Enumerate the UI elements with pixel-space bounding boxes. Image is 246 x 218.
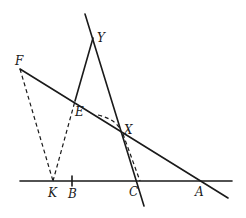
label-E: E <box>74 105 84 119</box>
label-K: K <box>47 186 58 200</box>
label-C: C <box>129 185 138 199</box>
label-B: B <box>67 187 77 201</box>
segment-E-Y <box>75 38 93 101</box>
label-Y: Y <box>97 31 106 45</box>
label-F: F <box>14 54 24 68</box>
geometry-diagram: Y F E X K B C A <box>0 0 246 218</box>
label-A: A <box>194 185 204 199</box>
label-X: X <box>123 123 133 137</box>
line-through-Y-C <box>85 14 144 206</box>
segment-K-E <box>53 101 75 181</box>
